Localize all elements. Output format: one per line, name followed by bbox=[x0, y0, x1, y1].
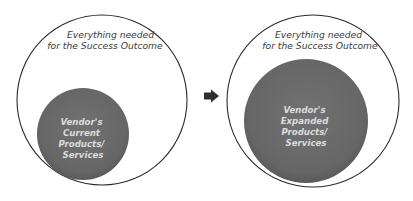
inner-label-current: Vendor's Current Products/ Services bbox=[59, 117, 108, 160]
before-diagram: Everything needed for the Success Outcom… bbox=[17, 15, 187, 185]
after-diagram: Everything needed for the Success Outcom… bbox=[227, 15, 399, 187]
inner-label-expanded: Vendor's Expanded Products/ Services bbox=[281, 105, 332, 148]
right-arrow-icon bbox=[204, 90, 219, 103]
success-outcome-diagram: Everything needed for the Success Outcom… bbox=[0, 0, 413, 201]
outer-label-after: Everything needed for the Success Outcom… bbox=[262, 29, 378, 51]
